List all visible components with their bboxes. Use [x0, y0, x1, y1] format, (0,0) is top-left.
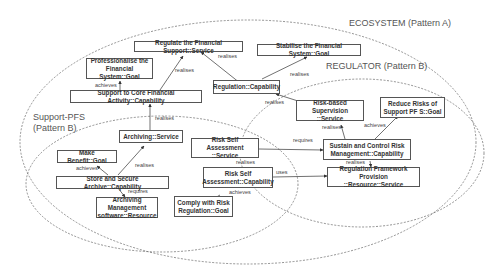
node-risk-self-assessment-capability[interactable]: Risk Self Assessment::Capability	[203, 167, 273, 188]
node-archiving-service[interactable]: Archiving::Service	[119, 130, 183, 143]
edge-label-requires: requires	[293, 137, 313, 143]
edge-label-realises: realises	[290, 71, 309, 77]
edge-label-realises: realises	[265, 99, 284, 105]
node-risk-self-assessment-service[interactable]: Risk Self Assessment ::Service	[191, 138, 259, 158]
node-professionalise-financial-system-goal[interactable]: Professionalise the Financial System::Go…	[86, 58, 153, 79]
edge-label-realises: realises	[346, 159, 365, 165]
ecosystem-label: ECOSYSTEM (Pattern A)	[349, 18, 451, 29]
node-regulate-financial-support-service[interactable]: Regulate the Financial Support::Service	[134, 41, 243, 52]
diagram-lines	[0, 0, 486, 269]
edge-label-realises: realises	[175, 67, 194, 73]
regulator-label: REGULATOR (Pattern B)	[326, 61, 427, 72]
node-comply-risk-regulation-goal[interactable]: Comply with Risk Regulation::Goal	[174, 196, 233, 217]
node-archiving-management-software-resource[interactable]: Archiving Management software::Resource	[96, 197, 158, 218]
edge-label-achieves: achieves	[95, 82, 117, 88]
node-stabilise-financial-system-goal[interactable]: Stabilise the Financial System::Goal	[257, 44, 361, 56]
node-risk-based-supervision-service[interactable]: Risk-based Supervision ::Service	[296, 100, 364, 121]
node-support-core-financial-activity-capability[interactable]: Support to Core Financial Activity::Capa…	[70, 90, 202, 103]
edge-label-achieves: achieves	[229, 189, 251, 195]
node-make-benefit-goal[interactable]: Make Benefit::Goal	[57, 150, 117, 163]
edge-label-achieves: achieves	[364, 122, 386, 128]
node-regulation-framework-provision-service[interactable]: Regulation Framework Provision ::Resourc…	[327, 167, 420, 187]
edge-label-realises: realises	[218, 53, 237, 59]
edge-label-realises: realises	[236, 159, 255, 165]
edge-label-realises: realises	[135, 162, 154, 168]
edge-label-achieves: achieves	[76, 165, 98, 171]
node-reduce-risks-goal[interactable]: Reduce Risks of Support PF S::Goal	[380, 97, 445, 118]
edge-label-uses: uses	[276, 169, 288, 175]
diagram-canvas: ECOSYSTEM (Pattern A) REGULATOR (Pattern…	[0, 0, 486, 269]
node-sustain-control-risk-management-capability[interactable]: Sustain and Control Risk Management::Cap…	[323, 139, 411, 160]
edge-label-realises: realises	[155, 115, 174, 121]
support-pfs-label: Support-PFS (Pattern B)	[33, 112, 85, 134]
edge-label-requires: requires	[128, 188, 148, 194]
node-regulation-capability[interactable]: Regulation::Capability	[213, 80, 280, 94]
edge-label-realises: realises	[322, 124, 341, 130]
node-store-secure-archive-capability[interactable]: Store and Secure Archive::Capability	[56, 176, 169, 189]
